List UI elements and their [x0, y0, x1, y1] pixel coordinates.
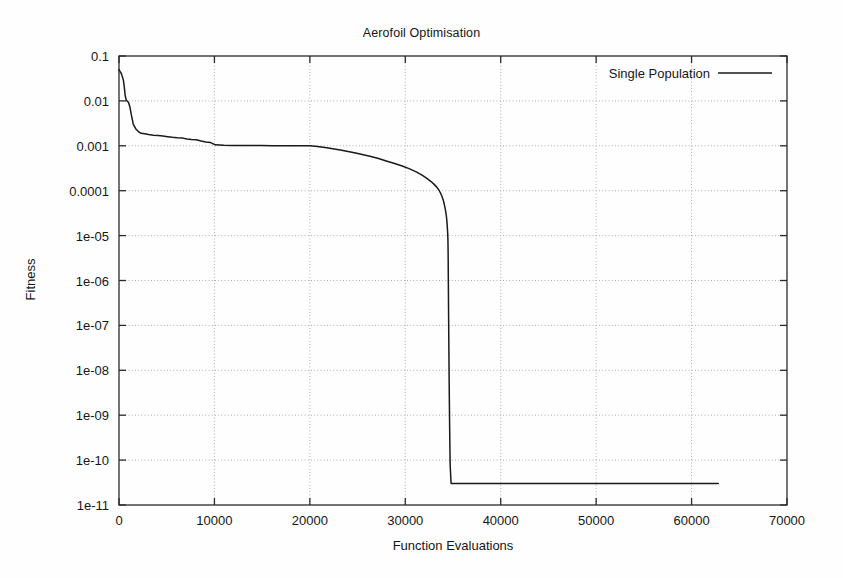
y-tick-label: 0.001 — [1, 138, 109, 153]
x-axis-label: Function Evaluations — [119, 538, 787, 553]
x-tick-label: 20000 — [292, 513, 328, 528]
chart-canvas — [0, 0, 843, 578]
y-tick-label: 0.0001 — [1, 183, 109, 198]
y-gridlines — [119, 101, 787, 460]
x-tick-label: 60000 — [673, 513, 709, 528]
legend-entry-label: Single Population — [592, 66, 710, 81]
x-tick-label: 70000 — [769, 513, 805, 528]
y-tick-label: 1e-05 — [1, 228, 109, 243]
y-tick-label: 1e-07 — [1, 318, 109, 333]
x-tick-label: 30000 — [387, 513, 423, 528]
x-tick-label: 10000 — [196, 513, 232, 528]
data-series-layer — [119, 70, 718, 484]
y-tick-label: 0.01 — [1, 93, 109, 108]
y-tick-label: 1e-08 — [1, 363, 109, 378]
chart-title: Aerofoil Optimisation — [0, 26, 843, 40]
x-tick-label: 50000 — [578, 513, 614, 528]
y-tick-label: 1e-11 — [1, 498, 109, 513]
series-line-0 — [119, 70, 718, 484]
x-tick-label: 40000 — [483, 513, 519, 528]
chart-figure: Aerofoil Optimisation Function Evaluatio… — [0, 0, 843, 578]
y-tick-label: 0.1 — [1, 49, 109, 64]
y-tick-label: 1e-09 — [1, 408, 109, 423]
y-tick-label: 1e-06 — [1, 273, 109, 288]
y-tick-label: 1e-10 — [1, 453, 109, 468]
x-tick-label: 0 — [115, 513, 122, 528]
